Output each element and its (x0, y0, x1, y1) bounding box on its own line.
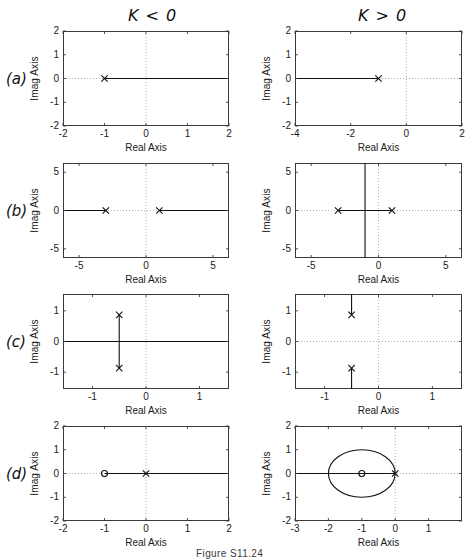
y-axis-label: Imag Axis (261, 426, 272, 521)
x-tick-label: 0 (381, 523, 409, 534)
x-tick-label: 1 (415, 523, 443, 534)
root-lock-figure: K < 0 K > 0 (a) (b) (c) (d) -2-1012-2-10… (0, 0, 476, 560)
y-tick-label: -2 (271, 515, 291, 526)
plot-canvas (0, 0, 476, 560)
x-axis-label: Real Axis (295, 537, 462, 548)
y-tick-label: -1 (271, 491, 291, 502)
y-tick-label: 1 (271, 444, 291, 455)
y-tick-label: 0 (271, 468, 291, 479)
y-tick-label: 2 (271, 420, 291, 431)
x-tick-label: -1 (348, 523, 376, 534)
figure-caption: Figure S11.24 (196, 548, 263, 559)
x-tick-label: -2 (314, 523, 342, 534)
